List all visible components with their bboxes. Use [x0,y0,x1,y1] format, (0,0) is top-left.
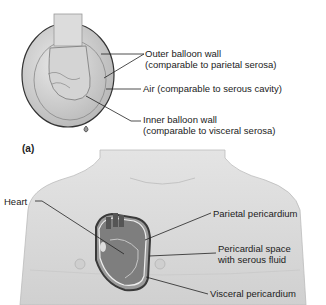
heart-label: Heart [4,196,27,207]
callout-line: with serous fluid [218,254,291,265]
outer-balloon-wall-label: Outer balloon wall (comparable to pariet… [145,48,276,70]
callout-line: Air (comparable to serous cavity) [143,83,282,94]
pericardial-space-label: Pericardial space with serous fluid [218,243,291,265]
callout-line: Pericardial space [218,243,291,254]
panel-a-label: (a) [22,143,34,154]
callout-line: (comparable to parietal serosa) [145,59,276,70]
parietal-pericardium-label: Parietal pericardium [213,208,297,219]
callout-line: (comparable to visceral serosa) [143,125,276,136]
inner-balloon-wall-label: Inner balloon wall (comparable to viscer… [143,114,276,136]
callout-line: Outer balloon wall [145,48,276,59]
callout-line: Parietal pericardium [213,208,297,219]
callout-line: Inner balloon wall [143,114,276,125]
visceral-pericardium-label: Visceral pericardium [210,288,296,299]
callout-line: Visceral pericardium [210,288,296,299]
balloon-illustration [22,14,114,132]
air-label: Air (comparable to serous cavity) [143,83,282,94]
